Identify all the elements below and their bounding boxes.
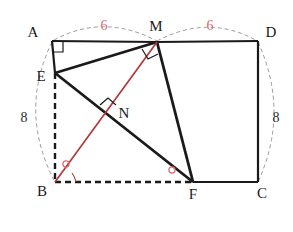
arc-a-b [36,42,55,182]
label-B: B [37,183,47,199]
measure-dc: 8 [273,110,280,125]
angle-mark-f-icon [169,167,175,173]
segment-e-m [55,42,157,73]
segment-m-f [157,42,193,182]
segment-a-e [52,41,55,73]
segment-m-d [157,41,258,42]
segment-b-m [55,42,157,182]
measure-md: 6 [207,18,214,33]
label-D: D [266,24,277,40]
label-E: E [36,68,45,84]
measure-ab: 8 [21,110,28,125]
segment-a-m [52,41,157,42]
solid-edges [52,41,258,182]
vertex-labels: A M D E N B F C [28,18,277,202]
measure-am: 6 [101,18,108,33]
geometry-diagram: A M D E N B F C 6 6 8 8 [0,0,293,232]
angle-arc-b-icon [72,173,76,182]
label-C: C [257,185,267,201]
label-A: A [28,24,39,40]
label-N: N [119,105,130,121]
label-F: F [189,186,197,202]
construction-line [55,42,157,182]
geometry-canvas: A M D E N B F C 6 6 8 8 [0,0,293,232]
segment-e-f [55,73,193,182]
label-M: M [149,18,162,34]
